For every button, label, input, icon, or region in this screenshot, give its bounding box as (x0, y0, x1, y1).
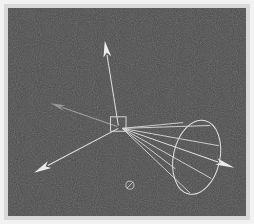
scene-svg (8, 8, 246, 216)
render-canvas[interactable] (8, 8, 246, 216)
figure-root (0, 0, 254, 224)
viewport-frame (4, 4, 250, 220)
noise-overlay (8, 8, 246, 216)
